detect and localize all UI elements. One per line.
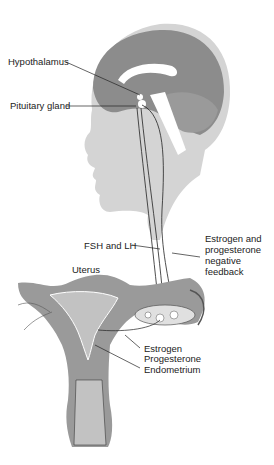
label-negative-feedback: Estrogen and progesterone negative feedb… (205, 233, 274, 277)
label-endometrium: Endometrium (144, 364, 201, 375)
hpo-axis-diagram: Hypothalamus Pituitary gland FSH and LH … (0, 0, 274, 465)
label-progesterone: Progesterone (144, 353, 201, 364)
cervical-canal (74, 380, 106, 445)
label-pituitary-gland: Pituitary gland (10, 100, 70, 111)
label-fsh-lh: FSH and LH (84, 240, 136, 251)
label-uterus: Uterus (72, 264, 100, 275)
label-hypothalamus: Hypothalamus (8, 56, 69, 67)
